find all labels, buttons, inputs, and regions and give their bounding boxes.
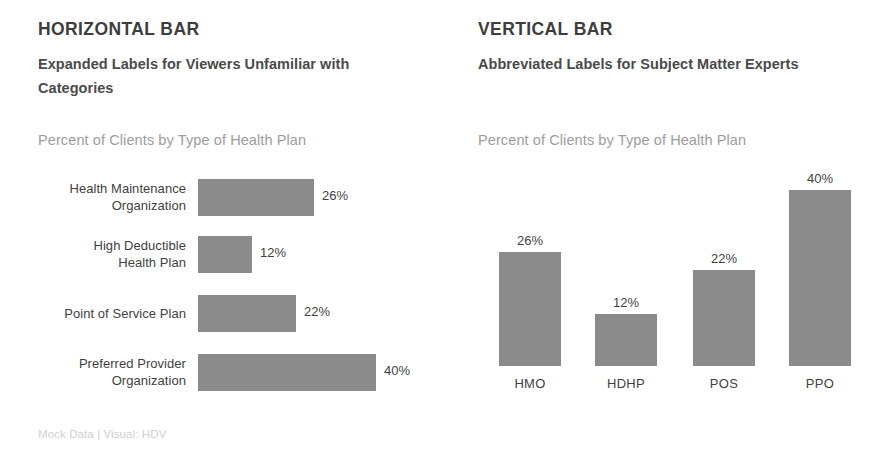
vertical-bar-chart: 26% HMO 12% HDHP 22% POS 40% PPO (440, 170, 875, 395)
hbar-label-ppo: Preferred Provider Organization (18, 355, 186, 389)
panel-horizontal-bar: HORIZONTAL BAR Expanded Labels for Viewe… (0, 0, 440, 471)
horizontal-bar-chart: Health Maintenance Organization 26% High… (0, 178, 440, 398)
hbar-value-hmo: 26% (322, 188, 348, 203)
vbar-value-ppo: 40% (772, 171, 868, 186)
footnote: Mock Data | Visual: HDV (38, 428, 166, 440)
hbar-bar-hmo (198, 179, 314, 216)
hbar-bar-ppo (198, 354, 376, 391)
vbar-value-hdhp: 12% (578, 295, 674, 310)
vbar-cat-ppo: PPO (772, 376, 868, 391)
hbar-value-pos: 22% (304, 304, 330, 319)
vbar-bar-hdhp (595, 314, 657, 366)
hbar-value-ppo: 40% (384, 363, 410, 378)
vbar-col-pos: 22% POS (676, 170, 772, 395)
vbar-cat-pos: POS (676, 376, 772, 391)
vertical-chart-subtitle: Percent of Clients by Type of Health Pla… (478, 132, 746, 148)
hbar-bar-pos (198, 295, 296, 332)
panel-right-subtitle: Abbreviated Labels for Subject Matter Ex… (478, 52, 848, 76)
horizontal-chart-subtitle: Percent of Clients by Type of Health Pla… (38, 132, 306, 148)
vbar-cat-hdhp: HDHP (578, 376, 674, 391)
figure-canvas: HORIZONTAL BAR Expanded Labels for Viewe… (0, 0, 875, 471)
hbar-row-hdhp: High Deductible Health Plan 12% (0, 235, 440, 283)
hbar-bar-hdhp (198, 236, 252, 273)
panel-left-subtitle: Expanded Labels for Viewers Unfamiliar w… (38, 52, 423, 100)
vbar-col-ppo: 40% PPO (772, 170, 868, 395)
vbar-value-hmo: 26% (482, 233, 578, 248)
hbar-row-ppo: Preferred Provider Organization 40% (0, 353, 440, 401)
vbar-col-hdhp: 12% HDHP (578, 170, 674, 395)
vbar-bar-pos (693, 270, 755, 366)
hbar-label-hmo: Health Maintenance Organization (18, 180, 186, 214)
panel-right-title: VERTICAL BAR (478, 18, 613, 40)
hbar-value-hdhp: 12% (260, 245, 286, 260)
vbar-bar-ppo (789, 190, 851, 366)
hbar-row-hmo: Health Maintenance Organization 26% (0, 178, 440, 226)
vbar-bar-hmo (499, 252, 561, 366)
vbar-col-hmo: 26% HMO (482, 170, 578, 395)
hbar-row-pos: Point of Service Plan 22% (0, 294, 440, 342)
hbar-label-hdhp: High Deductible Health Plan (18, 237, 186, 271)
panel-left-title: HORIZONTAL BAR (38, 18, 199, 40)
hbar-label-pos: Point of Service Plan (18, 305, 186, 322)
vbar-cat-hmo: HMO (482, 376, 578, 391)
vbar-value-pos: 22% (676, 251, 772, 266)
